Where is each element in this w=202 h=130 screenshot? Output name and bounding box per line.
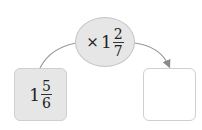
result-answer-box[interactable] [143, 68, 196, 121]
start-mixed-number: 1 5 6 [29, 79, 52, 110]
start-denominator: 6 [42, 95, 51, 110]
operator-numerator: 2 [113, 27, 124, 43]
operator-expression: × 1 2 7 [86, 27, 123, 58]
operator-whole: 1 [101, 32, 112, 52]
operator-oval: × 1 2 7 [75, 17, 135, 67]
start-numerator: 5 [41, 79, 52, 95]
start-value-box: 1 5 6 [14, 68, 67, 121]
operator-denominator: 7 [114, 43, 123, 58]
right-connector-arrow [134, 43, 169, 66]
operator-fraction: 2 7 [113, 27, 124, 58]
left-connector-curve [40, 43, 76, 68]
start-whole: 1 [29, 85, 40, 105]
start-fraction: 5 6 [41, 79, 52, 110]
multiply-symbol: × [86, 33, 99, 51]
